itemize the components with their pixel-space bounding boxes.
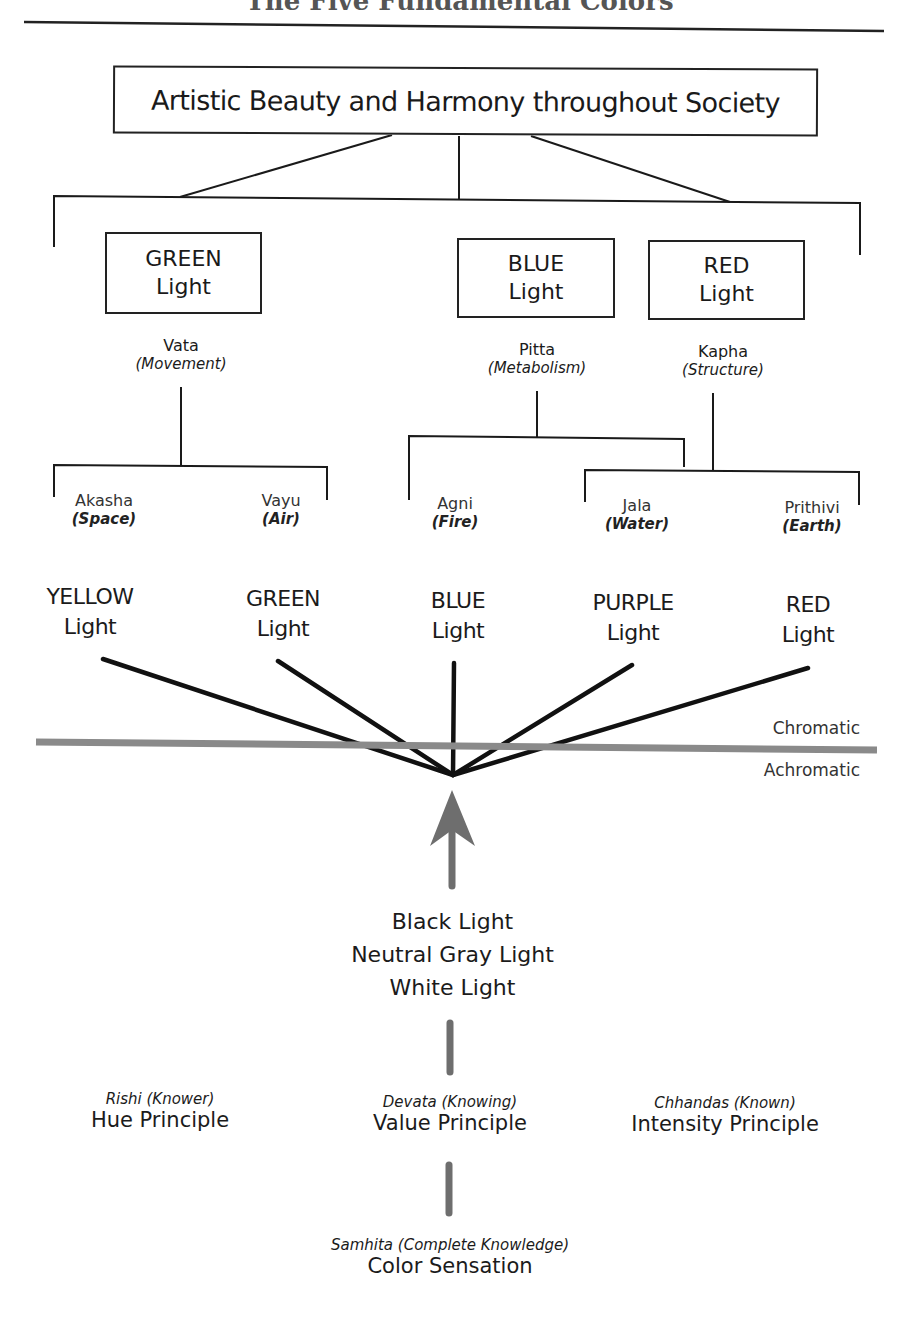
element-agni: Agni (Fire)	[415, 494, 495, 531]
fundamental-yellow: YELLOW Light	[20, 582, 160, 642]
green-light-box: GREEN Light	[105, 232, 262, 314]
ray-yellow	[103, 659, 453, 775]
element-akasha: Akasha (Space)	[54, 491, 154, 528]
principle-hue: Rishi (Knower) Hue Principle	[60, 1090, 260, 1132]
header-rule	[24, 22, 884, 31]
green-light-color: GREEN	[145, 245, 222, 273]
principle-hue-name: Hue Principle	[60, 1108, 260, 1132]
white-light-label: White Light	[300, 971, 605, 1004]
dosha-kapha-name: Kapha	[698, 342, 748, 361]
principle-hue-sub: Rishi (Knower)	[60, 1090, 260, 1108]
top-goal-box: Artistic Beauty and Harmony throughout S…	[113, 65, 818, 136]
fundamental-green-color: GREEN	[213, 584, 353, 614]
element-prithivi: Prithivi (Earth)	[762, 498, 862, 535]
achromatic-label: Achromatic	[740, 760, 860, 780]
fundamental-yellow-color: YELLOW	[20, 582, 160, 612]
element-vayu-name: Vayu	[261, 491, 300, 510]
principle-value: Devata (Knowing) Value Principle	[340, 1093, 560, 1135]
fundamental-purple: PURPLE Light	[563, 588, 703, 648]
pitta-bracket	[409, 436, 684, 500]
element-vayu-meaning: (Air)	[241, 510, 321, 528]
chromatic-label: Chromatic	[740, 718, 860, 738]
blue-light-suffix: Light	[509, 278, 564, 306]
fundamental-blue-color: BLUE	[388, 586, 528, 616]
fundamental-yellow-suffix: Light	[20, 612, 160, 642]
fundamental-blue-suffix: Light	[388, 616, 528, 646]
chromatic-divider-band	[36, 742, 877, 750]
element-vayu: Vayu (Air)	[241, 491, 321, 528]
principle-intensity-name: Intensity Principle	[610, 1112, 840, 1136]
red-light-suffix: Light	[699, 280, 754, 308]
element-jala-name: Jala	[623, 496, 652, 515]
fundamental-green: GREEN Light	[213, 584, 353, 644]
dosha-pitta-quality: (Metabolism)	[467, 359, 607, 377]
principle-value-name: Value Principle	[340, 1111, 560, 1135]
fundamental-purple-color: PURPLE	[563, 588, 703, 618]
fundamental-green-suffix: Light	[213, 614, 353, 644]
dosha-pitta-name: Pitta	[519, 340, 555, 359]
neutral-gray-light-label: Neutral Gray Light	[300, 938, 605, 971]
blue-light-color: BLUE	[508, 250, 564, 278]
ray-purple	[453, 665, 632, 775]
connector-top-right	[531, 136, 730, 202]
color-sensation-name: Color Sensation	[300, 1254, 600, 1278]
element-jala-meaning: (Water)	[592, 515, 682, 533]
color-sensation: Samhita (Complete Knowledge) Color Sensa…	[300, 1236, 600, 1278]
fundamental-purple-suffix: Light	[563, 618, 703, 648]
element-agni-name: Agni	[437, 494, 473, 513]
dosha-vata-name: Vata	[163, 336, 199, 355]
fundamental-red-color: RED	[738, 590, 878, 620]
connector-top-left	[180, 135, 392, 197]
blue-light-box: BLUE Light	[457, 238, 615, 318]
element-prithivi-meaning: (Earth)	[762, 517, 862, 535]
ray-green	[278, 661, 453, 775]
element-agni-meaning: (Fire)	[415, 513, 495, 531]
ray-blue	[453, 663, 454, 775]
element-akasha-name: Akasha	[75, 491, 133, 510]
principle-intensity: Chhandas (Known) Intensity Principle	[610, 1094, 840, 1136]
fundamental-red-suffix: Light	[738, 620, 878, 650]
dosha-vata: Vata (Movement)	[121, 336, 241, 373]
black-light-label: Black Light	[300, 905, 605, 938]
dosha-kapha-quality: (Structure)	[663, 361, 783, 379]
dosha-vata-quality: (Movement)	[121, 355, 241, 373]
element-akasha-meaning: (Space)	[54, 510, 154, 528]
principle-value-sub: Devata (Knowing)	[340, 1093, 560, 1111]
fundamental-red: RED Light	[738, 590, 878, 650]
green-light-suffix: Light	[156, 273, 211, 301]
red-light-box: RED Light	[648, 240, 805, 320]
dosha-kapha: Kapha (Structure)	[663, 342, 783, 379]
color-sensation-sub: Samhita (Complete Knowledge)	[300, 1236, 600, 1254]
dosha-pitta: Pitta (Metabolism)	[467, 340, 607, 377]
red-light-color: RED	[703, 252, 749, 280]
principle-intensity-sub: Chhandas (Known)	[610, 1094, 840, 1112]
fundamental-blue: BLUE Light	[388, 586, 528, 646]
element-prithivi-name: Prithivi	[784, 498, 839, 517]
element-jala: Jala (Water)	[592, 496, 682, 533]
achromatic-lights: Black Light Neutral Gray Light White Lig…	[300, 905, 605, 1004]
top-goal-label: Artistic Beauty and Harmony throughout S…	[151, 84, 780, 118]
